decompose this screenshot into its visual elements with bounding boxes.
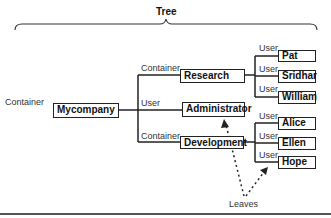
tree-brace xyxy=(15,19,317,30)
administrator-type-label: User xyxy=(141,98,160,108)
root-type-label: Container xyxy=(5,97,44,107)
node-research[interactable]: Research xyxy=(180,69,245,83)
william-type-label: User xyxy=(259,84,278,94)
node-development[interactable]: Development xyxy=(180,136,244,149)
node-ellen[interactable]: Ellen xyxy=(278,137,316,150)
node-william[interactable]: William xyxy=(278,91,316,104)
alice-type-label: User xyxy=(259,111,278,121)
development-type-label: Container xyxy=(141,131,180,141)
node-hope[interactable]: Hope xyxy=(278,156,316,169)
hope-type-label: User xyxy=(259,150,278,160)
pat-type-label: User xyxy=(259,43,278,53)
node-sridhar[interactable]: Sridhar xyxy=(278,70,316,83)
sridhar-type-label: User xyxy=(259,64,278,74)
research-type-label: Container xyxy=(141,63,180,73)
ellen-type-label: User xyxy=(259,131,278,141)
node-alice[interactable]: Alice xyxy=(278,117,316,130)
leaves-annotation: Leaves xyxy=(229,199,258,209)
tree-title: Tree xyxy=(156,6,177,17)
node-pat[interactable]: Pat xyxy=(278,50,316,62)
node-mycompany[interactable]: Mycompany xyxy=(53,103,119,118)
leaves-arrow-right xyxy=(246,172,264,196)
node-administrator[interactable]: Administrator xyxy=(182,102,245,117)
diagram-lines xyxy=(0,0,331,218)
